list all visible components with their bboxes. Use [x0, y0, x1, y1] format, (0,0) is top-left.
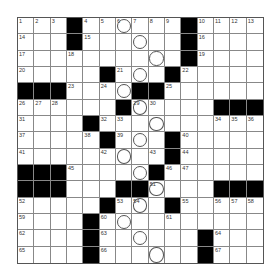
grid-cell[interactable]	[83, 51, 99, 67]
grid-cell[interactable]	[116, 34, 132, 50]
grid-cell[interactable]	[198, 132, 214, 148]
grid-cell[interactable]: 29	[132, 100, 148, 116]
grid-cell[interactable]	[247, 149, 263, 165]
grid-cell[interactable]	[149, 67, 165, 83]
grid-cell[interactable]	[198, 83, 214, 99]
grid-cell[interactable]	[198, 116, 214, 132]
grid-cell[interactable]: 13	[247, 18, 263, 34]
grid-cell[interactable]: 57	[230, 198, 246, 214]
grid-cell[interactable]: 26	[18, 100, 34, 116]
grid-cell[interactable]: 25	[165, 83, 181, 99]
grid-cell[interactable]: 55	[181, 198, 197, 214]
grid-cell[interactable]	[116, 214, 132, 230]
grid-cell[interactable]	[67, 149, 83, 165]
grid-cell[interactable]	[132, 149, 148, 165]
grid-cell[interactable]	[214, 83, 230, 99]
grid-cell[interactable]	[198, 149, 214, 165]
grid-cell[interactable]	[247, 214, 263, 230]
grid-cell[interactable]	[116, 165, 132, 181]
grid-cell[interactable]	[132, 230, 148, 246]
grid-cell[interactable]	[132, 247, 148, 263]
grid-cell[interactable]: 53	[116, 198, 132, 214]
grid-cell[interactable]: 37	[18, 132, 34, 148]
grid-cell[interactable]: 12	[230, 18, 246, 34]
grid-cell[interactable]	[83, 83, 99, 99]
grid-cell[interactable]	[149, 116, 165, 132]
grid-cell[interactable]	[83, 149, 99, 165]
grid-cell[interactable]: 24	[100, 83, 116, 99]
grid-cell[interactable]	[67, 100, 83, 116]
grid-cell[interactable]	[198, 198, 214, 214]
grid-cell[interactable]: 42	[100, 149, 116, 165]
grid-cell[interactable]	[230, 214, 246, 230]
grid-cell[interactable]	[51, 247, 67, 263]
grid-cell[interactable]: 61	[165, 214, 181, 230]
grid-cell[interactable]	[247, 165, 263, 181]
grid-cell[interactable]: 43	[149, 149, 165, 165]
grid-cell[interactable]: 67	[214, 247, 230, 263]
grid-cell[interactable]	[34, 198, 50, 214]
grid-cell[interactable]	[132, 165, 148, 181]
grid-cell[interactable]	[132, 116, 148, 132]
grid-cell[interactable]	[100, 100, 116, 116]
grid-cell[interactable]	[100, 51, 116, 67]
grid-cell[interactable]	[67, 198, 83, 214]
grid-cell[interactable]	[181, 247, 197, 263]
grid-cell[interactable]	[116, 83, 132, 99]
grid-cell[interactable]: 16	[198, 34, 214, 50]
grid-cell[interactable]	[181, 83, 197, 99]
grid-cell[interactable]	[67, 181, 83, 197]
grid-cell[interactable]: 33	[116, 116, 132, 132]
grid-cell[interactable]: 59	[18, 214, 34, 230]
grid-cell[interactable]	[230, 230, 246, 246]
grid-cell[interactable]: 2	[34, 18, 50, 34]
grid-cell[interactable]	[165, 34, 181, 50]
grid-cell[interactable]: 7	[132, 18, 148, 34]
grid-cell[interactable]: 45	[67, 165, 83, 181]
grid-cell[interactable]	[247, 132, 263, 148]
grid-cell[interactable]	[83, 67, 99, 83]
grid-cell[interactable]: 1	[18, 18, 34, 34]
grid-cell[interactable]: 11	[214, 18, 230, 34]
grid-cell[interactable]: 5	[100, 18, 116, 34]
grid-cell[interactable]: 63	[100, 230, 116, 246]
grid-cell[interactable]	[165, 116, 181, 132]
grid-cell[interactable]: 20	[18, 67, 34, 83]
grid-cell[interactable]	[230, 247, 246, 263]
grid-cell[interactable]	[165, 51, 181, 67]
grid-cell[interactable]	[165, 181, 181, 197]
grid-cell[interactable]	[51, 149, 67, 165]
grid-cell[interactable]	[34, 149, 50, 165]
grid-cell[interactable]: 47	[181, 165, 197, 181]
grid-cell[interactable]	[214, 132, 230, 148]
grid-cell[interactable]: 62	[18, 230, 34, 246]
grid-cell[interactable]: 65	[18, 247, 34, 263]
grid-cell[interactable]	[132, 67, 148, 83]
grid-cell[interactable]	[181, 116, 197, 132]
grid-cell[interactable]	[214, 67, 230, 83]
grid-cell[interactable]	[149, 34, 165, 50]
grid-cell[interactable]	[34, 116, 50, 132]
grid-cell[interactable]	[230, 165, 246, 181]
grid-cell[interactable]	[132, 51, 148, 67]
grid-cell[interactable]	[83, 165, 99, 181]
grid-cell[interactable]: 66	[100, 247, 116, 263]
grid-cell[interactable]	[67, 247, 83, 263]
grid-cell[interactable]	[181, 230, 197, 246]
grid-cell[interactable]	[214, 165, 230, 181]
grid-cell[interactable]: 39	[116, 132, 132, 148]
grid-cell[interactable]	[149, 198, 165, 214]
grid-cell[interactable]	[83, 100, 99, 116]
grid-cell[interactable]: 14	[18, 34, 34, 50]
grid-cell[interactable]	[132, 214, 148, 230]
grid-cell[interactable]	[247, 34, 263, 50]
grid-cell[interactable]: 36	[247, 116, 263, 132]
grid-cell[interactable]: 56	[214, 198, 230, 214]
grid-cell[interactable]	[214, 34, 230, 50]
grid-cell[interactable]: 15	[83, 34, 99, 50]
grid-cell[interactable]	[214, 214, 230, 230]
grid-cell[interactable]: 58	[247, 198, 263, 214]
grid-cell[interactable]	[34, 230, 50, 246]
grid-cell[interactable]	[100, 165, 116, 181]
grid-cell[interactable]	[165, 247, 181, 263]
